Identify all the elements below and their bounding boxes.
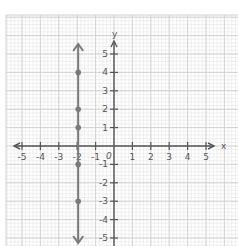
x-tick-label: 3: [166, 152, 172, 162]
x-tick-label: 2: [148, 152, 154, 162]
x-tick-label: 4: [185, 152, 191, 162]
y-tick-label: -5: [99, 233, 108, 243]
line-x-eq-neg2: [73, 44, 83, 243]
y-tick-label: 2: [102, 104, 108, 114]
origin-label: 0: [106, 151, 112, 161]
data-point: [75, 125, 81, 131]
x-tick-label: 1: [130, 152, 136, 162]
y-tick-label: -2: [99, 178, 108, 188]
y-tick-label: 4: [102, 67, 108, 77]
y-tick-label: 1: [102, 123, 108, 133]
data-point: [75, 70, 81, 76]
y-tick-label: -4: [99, 215, 108, 225]
data-point: [75, 198, 81, 204]
x-tick-label: -4: [36, 152, 45, 162]
data-point: [75, 162, 81, 168]
graph-paper-chart: -5-4-3-2-11234554321-1-2-3-4-5 x y 0: [0, 0, 238, 246]
data-point: [75, 106, 81, 112]
y-tick-label: 5: [102, 49, 108, 59]
y-tick-label: 3: [102, 86, 108, 96]
x-tick-label: 5: [203, 152, 209, 162]
x-tick-label: -5: [18, 152, 27, 162]
y-tick-label: -3: [99, 196, 108, 206]
x-tick-label: -3: [54, 152, 63, 162]
y-axis-label: y: [112, 29, 118, 39]
major-grid: [6, 15, 238, 246]
x-axis-label: x: [221, 141, 227, 151]
